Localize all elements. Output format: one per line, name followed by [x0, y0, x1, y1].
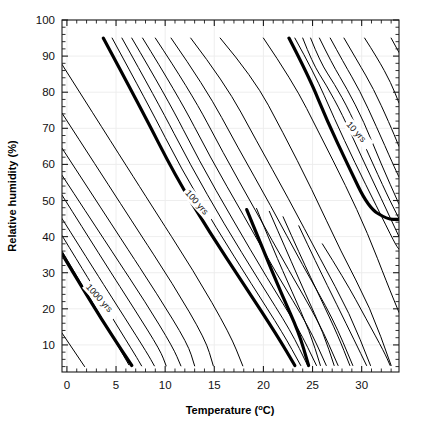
y-ticklabel: 30	[42, 267, 55, 279]
x-ticklabel: 20	[257, 379, 270, 391]
x-ticklabel: 0	[64, 379, 70, 391]
contour-plot-figure: 1000 yrs100 yrs10 yrs 051015202530 10203…	[0, 0, 421, 431]
x-ticklabel: 10	[159, 379, 172, 391]
x-ticklabel: 15	[208, 379, 221, 391]
y-axis-label: Relative humidity (%)	[6, 140, 18, 252]
y-ticklabel: 90	[42, 50, 55, 62]
y-ticklabel: 60	[42, 158, 55, 170]
plot-svg: 1000 yrs100 yrs10 yrs 051015202530 10203…	[0, 0, 421, 431]
y-ticklabel: 70	[42, 122, 55, 134]
y-ticklabel: 20	[42, 303, 55, 315]
y-ticklabel: 40	[42, 231, 55, 243]
x-ticklabel: 5	[113, 379, 119, 391]
x-ticklabel: 25	[306, 379, 319, 391]
y-ticklabel: 10	[42, 339, 55, 351]
y-ticklabel: 80	[42, 86, 55, 98]
x-ticklabel: 30	[355, 379, 368, 391]
y-ticklabel: 50	[42, 195, 55, 207]
y-ticklabel: 100	[36, 14, 55, 26]
